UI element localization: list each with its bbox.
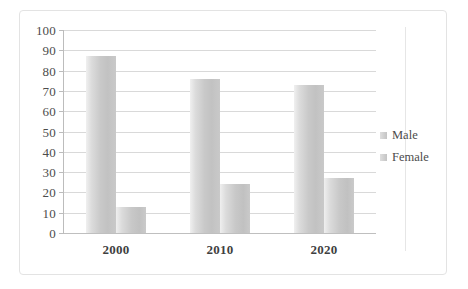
y-axis-tick-mark bbox=[59, 172, 64, 173]
bar-female-2010[interactable] bbox=[220, 184, 250, 233]
y-axis-tick-label: 10 bbox=[22, 206, 56, 219]
y-axis-tick-mark bbox=[59, 71, 64, 72]
y-axis-tick-mark bbox=[59, 152, 64, 153]
gridline bbox=[64, 30, 376, 31]
y-axis-tick-mark bbox=[59, 50, 64, 51]
gridline bbox=[64, 233, 376, 234]
y-axis-tick-label: 30 bbox=[22, 166, 56, 179]
plot-area: 200020102020 bbox=[64, 30, 376, 233]
bar-male-2020[interactable] bbox=[294, 85, 324, 233]
y-axis-tick-mark bbox=[59, 132, 64, 133]
y-axis-tick-label: 80 bbox=[22, 64, 56, 77]
gridline bbox=[64, 50, 376, 51]
y-axis-tick-label: 0 bbox=[22, 227, 56, 240]
y-axis-tick-mark bbox=[59, 192, 64, 193]
chart-frame: 0102030405060708090100 200020102020 Male… bbox=[19, 10, 447, 275]
bar-female-2020[interactable] bbox=[324, 178, 354, 233]
y-axis-tick-label: 50 bbox=[22, 125, 56, 138]
x-axis-category-label: 2010 bbox=[206, 242, 233, 258]
y-axis-tick-mark bbox=[59, 30, 64, 31]
bar-male-2000[interactable] bbox=[86, 56, 116, 233]
legend-swatch-square-icon bbox=[380, 132, 387, 139]
x-axis-category-label: 2000 bbox=[102, 242, 129, 258]
y-axis-tick-label: 100 bbox=[22, 24, 56, 37]
y-axis-tick-label: 40 bbox=[22, 145, 56, 158]
chart-legend: Male Female bbox=[380, 124, 446, 168]
bar-male-2010[interactable] bbox=[190, 79, 220, 233]
y-axis-tick-labels: 0102030405060708090100 bbox=[20, 30, 56, 234]
y-axis-tick-label: 90 bbox=[22, 44, 56, 57]
legend-label: Male bbox=[392, 129, 418, 142]
legend-swatch-square-icon bbox=[380, 154, 387, 161]
y-axis-tick-mark bbox=[59, 213, 64, 214]
legend-item-female[interactable]: Female bbox=[380, 146, 446, 168]
x-axis-category-label: 2020 bbox=[310, 242, 337, 258]
y-axis-tick-label: 60 bbox=[22, 105, 56, 118]
y-axis-tick-label: 70 bbox=[22, 84, 56, 97]
legend-label: Female bbox=[392, 151, 429, 164]
bar-female-2000[interactable] bbox=[116, 207, 146, 233]
y-axis-tick-mark bbox=[59, 111, 64, 112]
y-axis-tick-label: 20 bbox=[22, 186, 56, 199]
legend-item-male[interactable]: Male bbox=[380, 124, 446, 146]
y-axis-tick-mark bbox=[59, 91, 64, 92]
y-axis-tick-mark bbox=[59, 233, 64, 234]
